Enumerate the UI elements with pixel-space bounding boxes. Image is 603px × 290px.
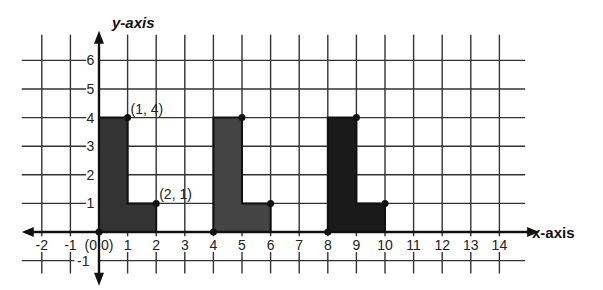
y-tick-label: 3	[87, 138, 95, 154]
x-tick-label: 14	[492, 237, 508, 253]
y-axis-label-text: y-axis	[111, 14, 155, 31]
y-tick-label: 2	[87, 167, 95, 183]
coordinate-grid: -2-1(0,0)1234567891011121314-1123456 (1,…	[0, 0, 603, 290]
x-tick-label: 2	[152, 237, 160, 253]
point-marker	[239, 114, 246, 121]
point-marker	[267, 200, 274, 207]
x-tick-label: 13	[463, 237, 479, 253]
point-annotation: (1, 4)	[131, 101, 164, 117]
y-tick-label: 5	[87, 81, 95, 97]
x-tick-label: 1	[124, 237, 132, 253]
x-tick-label: 3	[181, 237, 189, 253]
y-tick-label: 6	[87, 52, 95, 68]
y-tick-label: 1	[87, 195, 95, 211]
x-tick-label: 12	[434, 237, 450, 253]
y-axis-arrow-up	[94, 31, 104, 44]
x-tick-label: (0,0)	[85, 237, 114, 253]
x-tick-label: 8	[324, 237, 332, 253]
x-tick-label: -1	[64, 237, 77, 253]
point-marker	[353, 114, 360, 121]
point-marker	[382, 200, 389, 207]
x-tick-label: 6	[267, 237, 275, 253]
y-tick-label: 4	[87, 110, 95, 126]
x-tick-label: 10	[377, 237, 393, 253]
point-marker	[96, 229, 103, 236]
y-axis-label: y-axis	[111, 14, 155, 31]
x-tick-label: 11	[406, 237, 421, 253]
x-tick-label: 5	[238, 237, 246, 253]
x-tick-label: 9	[353, 237, 361, 253]
x-tick-label: -2	[36, 237, 49, 253]
x-tick-label: 4	[210, 237, 218, 253]
y-axis-arrow-down	[94, 273, 104, 286]
point-marker	[324, 229, 331, 236]
y-tick-label: -1	[77, 253, 90, 269]
x-axis-label: x-axis	[532, 224, 575, 241]
point-annotation: (2, 1)	[159, 186, 192, 202]
x-axis-label-text: x-axis	[532, 224, 575, 241]
x-axis-arrow-left	[22, 227, 34, 237]
point-annotations: (1, 4)(2, 1)	[131, 101, 192, 203]
point-marker	[210, 229, 217, 236]
x-tick-label: 7	[295, 237, 303, 253]
